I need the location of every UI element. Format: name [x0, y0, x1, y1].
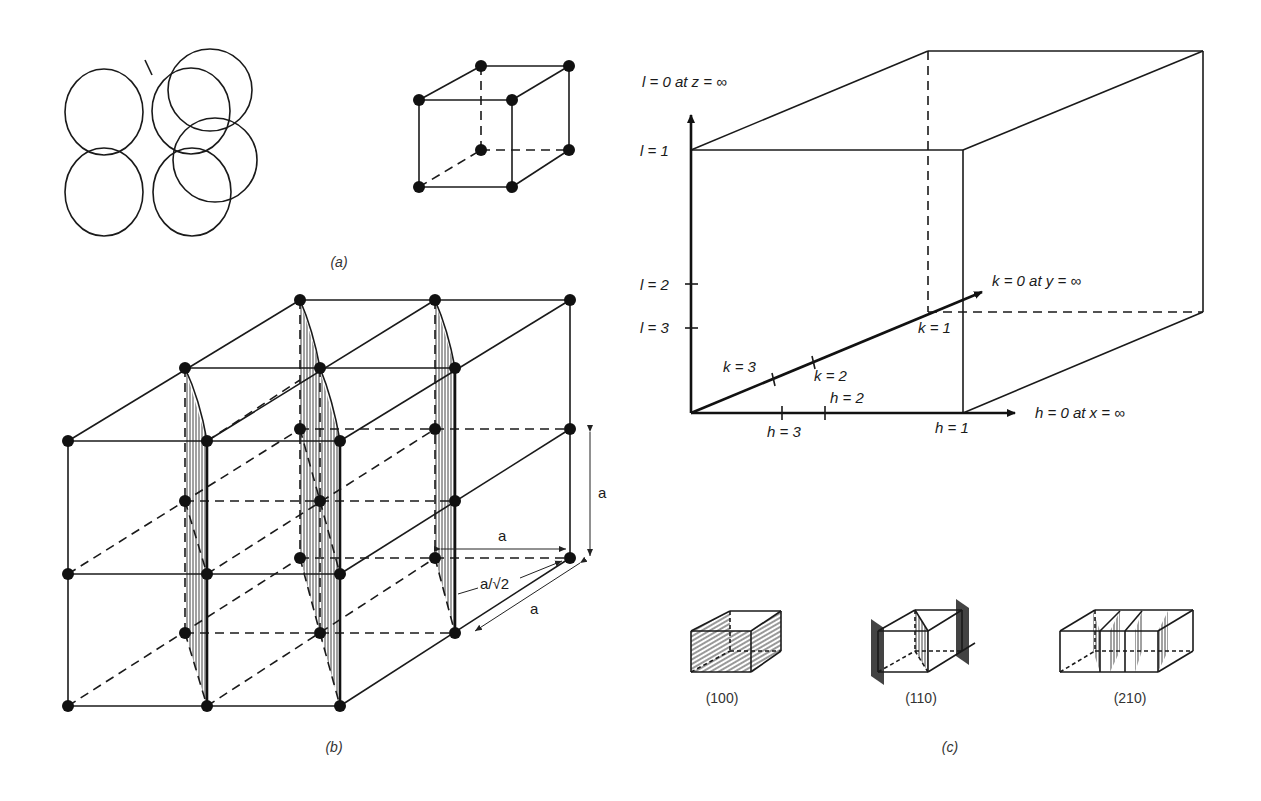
tick-k1: k = 1 [918, 319, 951, 336]
simple-cubic-unit-cell [413, 60, 575, 193]
dim-spacing: a/√2 [480, 575, 509, 592]
dim-vertical-a: a [598, 484, 607, 501]
dimension-annotations: a a a a/√2 [441, 432, 607, 631]
dim-horizontal-a: a [498, 527, 507, 544]
intercept-box [691, 51, 1203, 413]
tick-l2: l = 2 [640, 276, 669, 293]
tick-h2: h = 2 [830, 389, 864, 406]
close-packed-spheres [65, 49, 257, 236]
panel-a: (a) [65, 49, 575, 270]
tick-k3: k = 3 [723, 358, 757, 375]
plane-210-cube: (210) [1060, 610, 1193, 706]
tick-l1: l = 1 [640, 142, 669, 159]
tick-h3: h = 3 [767, 423, 801, 440]
tick-h1: h = 1 [935, 419, 969, 436]
caption-b: (b) [325, 739, 342, 755]
caption-a: (a) [330, 254, 347, 270]
axis-labels: l = 0 at z = ∞ k = 0 at y = ∞ h = 0 at x… [640, 73, 1125, 440]
tick-k2: k = 2 [814, 367, 848, 384]
x-axis-label: h = 0 at x = ∞ [1035, 404, 1125, 421]
caption-c: (c) [942, 739, 958, 755]
z-axis-label: l = 0 at z = ∞ [642, 73, 727, 90]
y-axis-label: k = 0 at y = ∞ [992, 272, 1081, 289]
plane-100-label: (100) [706, 690, 739, 706]
tick-l3: l = 3 [640, 319, 669, 336]
dim-depth-a: a [530, 600, 539, 617]
plane-110-label: (110) [905, 690, 937, 706]
panel-b: a a a a/√2 (b) [62, 294, 607, 755]
plane-210-label: (210) [1114, 690, 1147, 706]
lattice-nodes [62, 294, 576, 712]
plane-110-cube: (110) [871, 599, 975, 706]
plane-100-cube: (100) [691, 611, 781, 706]
panel-c: l = 0 at z = ∞ k = 0 at y = ∞ h = 0 at x… [640, 51, 1203, 755]
figure-canvas: (a) [0, 0, 1261, 801]
